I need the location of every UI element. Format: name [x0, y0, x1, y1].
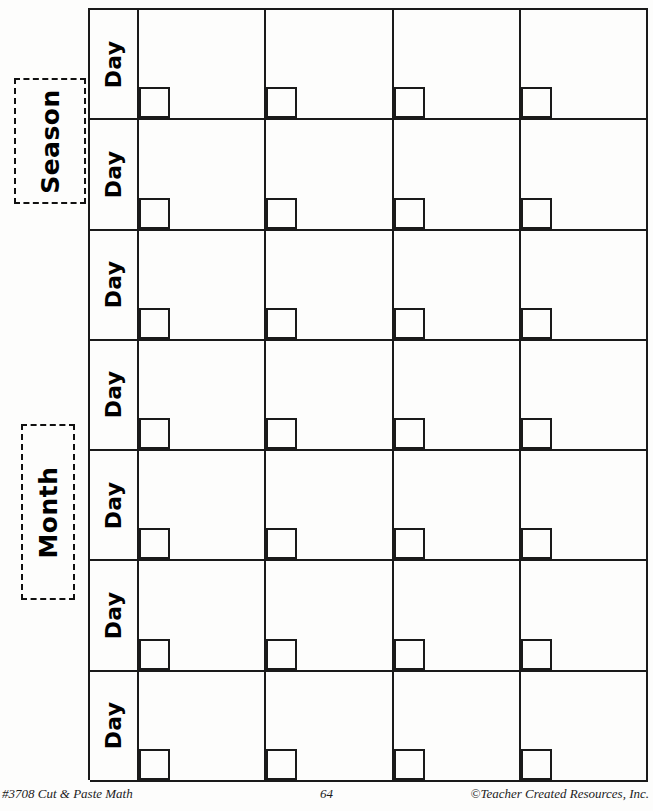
day-label-cell: Day — [90, 231, 139, 339]
day-label-cell: Day — [90, 120, 139, 228]
paste-box[interactable] — [139, 749, 170, 780]
cut-out-label-column: Season Month — [0, 0, 88, 790]
work-cell[interactable] — [521, 451, 648, 559]
cutout-label-month-text: Month — [34, 466, 63, 558]
work-cell[interactable] — [521, 231, 648, 339]
grid-row: Day — [90, 341, 648, 451]
paste-box[interactable] — [266, 749, 297, 780]
calendar-grid-table: DayDayDayDayDayDayDay — [88, 8, 648, 780]
work-cell[interactable] — [521, 10, 648, 118]
work-cell[interactable] — [266, 561, 393, 669]
grid-row: Day — [90, 10, 648, 120]
day-label-text: Day — [101, 40, 126, 88]
paste-box[interactable] — [394, 418, 425, 449]
work-cell[interactable] — [139, 231, 266, 339]
paste-box[interactable] — [266, 418, 297, 449]
paste-box[interactable] — [521, 418, 552, 449]
paste-box[interactable] — [139, 639, 170, 670]
day-label-cell: Day — [90, 561, 139, 669]
grid-row: Day — [90, 120, 648, 230]
grid-row: Day — [90, 451, 648, 561]
work-cell[interactable] — [521, 120, 648, 228]
day-label-text: Day — [101, 371, 126, 419]
paste-box[interactable] — [394, 528, 425, 559]
work-cell[interactable] — [394, 672, 521, 780]
day-label-text: Day — [101, 702, 126, 750]
day-label-text: Day — [101, 592, 126, 640]
work-cell[interactable] — [521, 672, 648, 780]
work-cell[interactable] — [266, 341, 393, 449]
work-cell[interactable] — [139, 120, 266, 228]
work-cell[interactable] — [139, 672, 266, 780]
work-cell[interactable] — [394, 10, 521, 118]
day-label-cell: Day — [90, 451, 139, 559]
footer-copyright: ©Teacher Created Resources, Inc. — [471, 786, 649, 802]
paste-box[interactable] — [266, 308, 297, 339]
cutout-label-season[interactable]: Season — [14, 78, 86, 204]
paste-box[interactable] — [394, 198, 425, 229]
work-cell[interactable] — [139, 10, 266, 118]
paste-box[interactable] — [139, 308, 170, 339]
paste-box[interactable] — [521, 87, 552, 118]
paste-box[interactable] — [266, 198, 297, 229]
paste-box[interactable] — [521, 528, 552, 559]
paste-box[interactable] — [139, 87, 170, 118]
day-label-cell: Day — [90, 10, 139, 118]
paste-box[interactable] — [521, 749, 552, 780]
work-cell[interactable] — [139, 561, 266, 669]
day-label-cell: Day — [90, 341, 139, 449]
work-cell[interactable] — [139, 451, 266, 559]
work-cell[interactable] — [394, 120, 521, 228]
paste-box[interactable] — [139, 418, 170, 449]
work-cell[interactable] — [266, 231, 393, 339]
day-label-text: Day — [101, 261, 126, 309]
work-cell[interactable] — [521, 561, 648, 669]
cutout-label-season-text: Season — [36, 89, 65, 194]
paste-box[interactable] — [266, 528, 297, 559]
work-cell[interactable] — [139, 341, 266, 449]
work-cell[interactable] — [521, 341, 648, 449]
work-cell[interactable] — [266, 451, 393, 559]
page-footer: #3708 Cut & Paste Math 64 ©Teacher Creat… — [0, 783, 653, 807]
work-cell[interactable] — [394, 231, 521, 339]
paste-box[interactable] — [394, 639, 425, 670]
paste-box[interactable] — [394, 87, 425, 118]
grid-row: Day — [90, 231, 648, 341]
paste-box[interactable] — [139, 528, 170, 559]
paste-box[interactable] — [394, 308, 425, 339]
grid-row: Day — [90, 672, 648, 782]
paste-box[interactable] — [521, 639, 552, 670]
day-label-text: Day — [101, 481, 126, 529]
work-cell[interactable] — [394, 451, 521, 559]
work-cell[interactable] — [266, 10, 393, 118]
paste-box[interactable] — [521, 198, 552, 229]
work-cell[interactable] — [394, 341, 521, 449]
paste-box[interactable] — [394, 749, 425, 780]
day-label-text: Day — [101, 151, 126, 199]
work-cell[interactable] — [266, 672, 393, 780]
cutout-label-month[interactable]: Month — [21, 424, 75, 600]
paste-box[interactable] — [139, 198, 170, 229]
day-label-cell: Day — [90, 672, 139, 780]
paste-box[interactable] — [266, 87, 297, 118]
work-cell[interactable] — [394, 561, 521, 669]
paste-box[interactable] — [521, 308, 552, 339]
grid-row: Day — [90, 561, 648, 671]
paste-box[interactable] — [266, 639, 297, 670]
work-cell[interactable] — [266, 120, 393, 228]
